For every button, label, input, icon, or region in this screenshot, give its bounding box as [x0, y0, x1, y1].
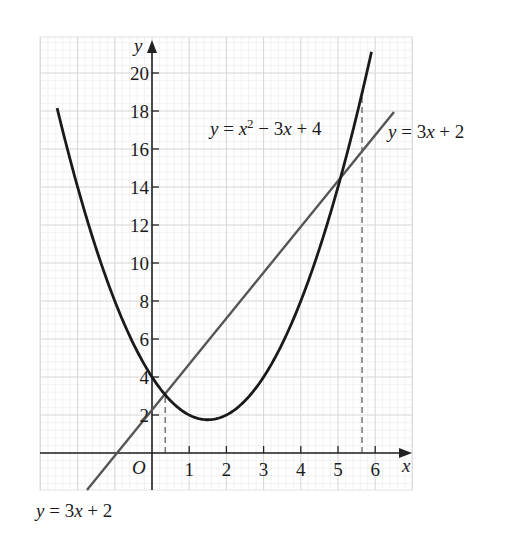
y-tick-label: 18: [130, 101, 149, 122]
y-tick-label: 14: [130, 177, 150, 198]
major-grid: [40, 37, 412, 490]
x-tick-label: 3: [259, 459, 269, 480]
x-tick-label: 2: [222, 459, 232, 480]
y-tick-label: 20: [130, 63, 149, 84]
y-tick-label: 12: [130, 215, 149, 236]
x-tick-label: 5: [333, 459, 343, 480]
parabola-curve: [57, 52, 371, 420]
label-eq: =: [218, 118, 238, 139]
label-rest2: + 4: [292, 118, 322, 139]
label-y: y: [386, 121, 397, 142]
origin-label: O: [132, 457, 146, 478]
graph-figure: 123456 2468101214161820 x y O y = x2 − 3…: [0, 0, 516, 546]
y-tick-label: 6: [140, 329, 150, 350]
x-axis-label: x: [401, 455, 411, 476]
axes: [40, 48, 404, 490]
parabola-equation-label: y = x2 − 3x + 4: [208, 116, 322, 139]
label-eq: = 3: [44, 500, 74, 521]
line-equation-label-top: y = 3x + 2: [386, 121, 464, 142]
label-y: y: [34, 500, 45, 521]
x-tick-label: 6: [370, 459, 380, 480]
x-tick-label: 4: [296, 459, 306, 480]
x-tick-labels: 123456: [184, 459, 380, 480]
y-tick-label: 2: [140, 405, 150, 426]
y-tick-label: 8: [140, 291, 150, 312]
y-axis-label: y: [132, 35, 143, 56]
y-tick-label: 16: [130, 139, 149, 160]
line-equation-label-bottom: y = 3x + 2: [34, 500, 112, 521]
label-eq: = 3: [396, 121, 426, 142]
label-rest: + 2: [435, 121, 465, 142]
y-tick-label: 4: [140, 367, 150, 388]
y-axis-arrow-icon: [147, 40, 157, 53]
label-rest1: − 3: [254, 118, 284, 139]
label-rest: + 2: [83, 500, 113, 521]
x-tick-label: 1: [184, 459, 194, 480]
y-tick-labels: 2468101214161820: [130, 63, 150, 426]
label-y: y: [208, 118, 219, 139]
y-tick-label: 10: [130, 253, 149, 274]
